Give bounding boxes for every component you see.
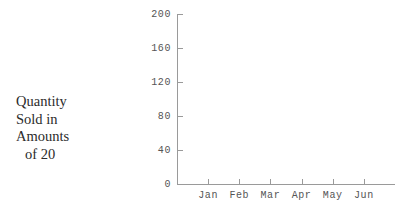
x-axis-tick-label: Apr: [292, 190, 312, 201]
x-axis-tick-label: Feb: [229, 190, 249, 201]
y-axis-tick-label: 0: [164, 179, 171, 190]
y-axis-tick-label: 80: [158, 111, 171, 122]
y-axis-tick-label: 120: [151, 77, 171, 88]
y-axis-title-line-3: Amounts: [16, 128, 108, 146]
y-axis-tick-label: 160: [151, 43, 171, 54]
x-axis-tick-label: May: [323, 190, 343, 201]
y-axis-title: Quantity Sold in Amounts of 20: [16, 93, 108, 163]
y-axis-tick: [178, 184, 183, 185]
y-axis-title-line-4: of 20: [16, 146, 108, 164]
data-series-layer: [178, 14, 395, 184]
y-axis-title-line-1: Quantity: [16, 93, 108, 111]
y-axis-tick-label: 40: [158, 145, 171, 156]
y-axis-tick-label: 200: [151, 9, 171, 20]
x-axis-line: [177, 184, 395, 185]
x-axis-tick-label: Mar: [261, 190, 281, 201]
x-axis-tick-label: Jun: [354, 190, 374, 201]
x-axis-tick-label: Jan: [198, 190, 218, 201]
plot-area: 04080120160200 JanFebMarAprMayJun: [177, 14, 395, 185]
chart-figure: Quantity Sold in Amounts of 20 040801201…: [0, 0, 405, 212]
y-axis-title-line-2: Sold in: [16, 111, 108, 129]
